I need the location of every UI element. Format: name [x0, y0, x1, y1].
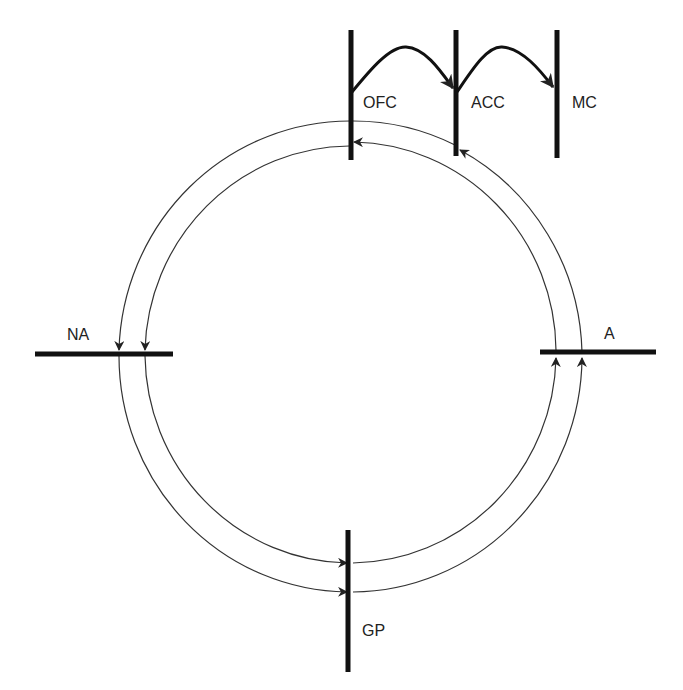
ofc-to-acc-arc: [352, 47, 453, 92]
cortical-arcs: [352, 47, 553, 92]
mc-label: MC: [572, 94, 597, 111]
gp-label: GP: [362, 622, 385, 639]
inner-ring: [145, 142, 556, 563]
ofc-label: OFC: [363, 94, 397, 111]
node-bars: [35, 30, 656, 672]
circuit-diagram: OFC ACC MC NA A GP: [0, 0, 683, 690]
acc-to-mc-arc: [457, 47, 553, 92]
acc-label: ACC: [471, 94, 505, 111]
a-label: A: [604, 325, 615, 342]
outer-ring: [119, 121, 582, 592]
na-label: NA: [67, 326, 90, 343]
